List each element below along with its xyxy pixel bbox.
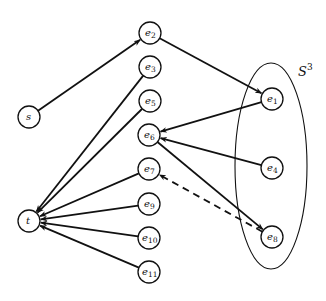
node-s: s — [18, 106, 40, 128]
edge-e4-to-e6 — [161, 138, 262, 165]
node-e4: e4 — [261, 157, 283, 179]
node-t: t — [18, 210, 40, 232]
edge-e9-to-t — [41, 206, 138, 220]
node-e10: e10 — [138, 227, 160, 249]
graph-diagram: S3 ste2e3e5e6e7e9e10e11e1e4e8 — [0, 0, 326, 301]
edge-e6-to-e8 — [157, 142, 262, 229]
edge-e2-to-e1 — [160, 38, 262, 93]
edge-e8-to-e7 — [160, 175, 263, 232]
edge-e3-to-t — [36, 76, 143, 212]
node-e7: e7 — [138, 158, 160, 180]
node-e6: e6 — [138, 124, 160, 146]
node-label: s — [26, 111, 31, 122]
node-e2: e2 — [139, 22, 161, 44]
edge-e10-to-t — [41, 223, 138, 237]
node-e8: e8 — [261, 226, 283, 248]
edge-e1-to-e6 — [161, 102, 262, 132]
node-e11: e11 — [138, 261, 160, 283]
node-e5: e5 — [139, 90, 161, 112]
node-e3: e3 — [139, 56, 161, 78]
nodes-layer: ste2e3e5e6e7e9e10e11e1e4e8 — [18, 22, 283, 283]
edge-e5-to-t — [38, 109, 143, 213]
set-s3-label: S3 — [298, 62, 313, 79]
node-e9: e9 — [138, 193, 160, 215]
node-e1: e1 — [261, 88, 283, 110]
edge-e11-to-t — [40, 226, 139, 268]
